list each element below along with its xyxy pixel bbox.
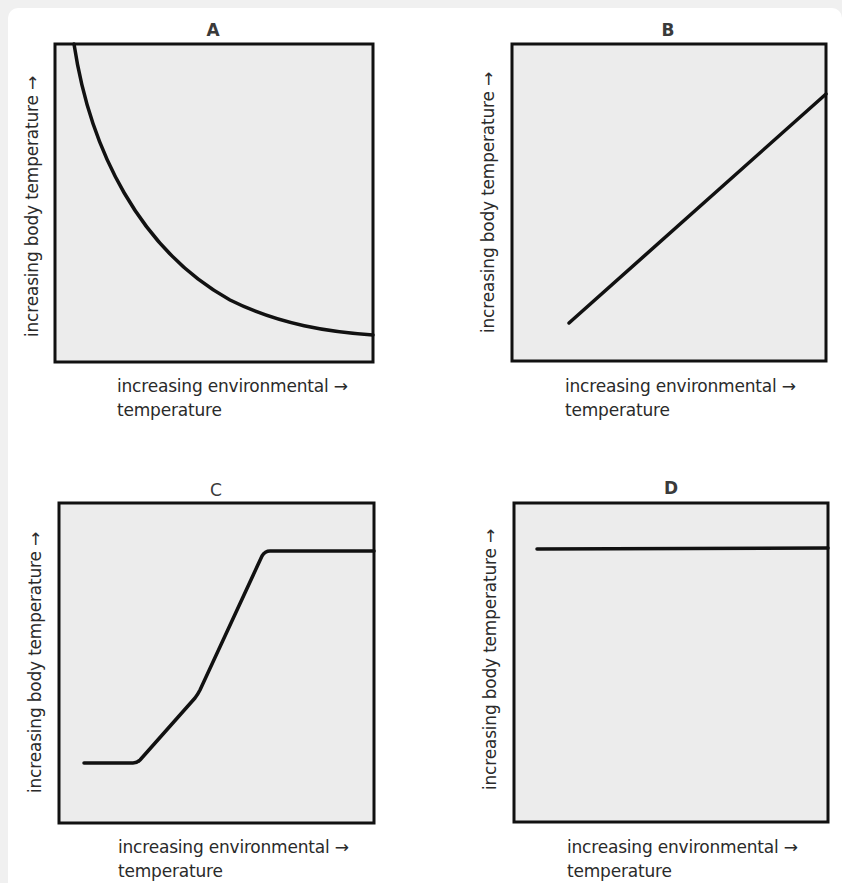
x-axis-label: increasing environmental → temperature	[567, 835, 798, 883]
x-axis-label-line1: increasing environmental →	[567, 835, 798, 859]
panel-d: D increasing body temperature → increasi…	[0, 0, 842, 883]
y-axis-label: increasing body temperature →	[480, 529, 500, 790]
plot-area	[0, 0, 842, 883]
plot-frame	[514, 503, 828, 822]
data-line	[537, 548, 828, 549]
x-axis-label-line2: temperature	[567, 859, 798, 883]
